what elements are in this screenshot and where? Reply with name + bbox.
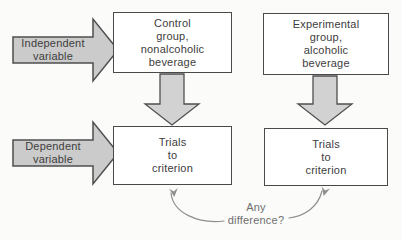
any-difference-annotation: Any difference?: [206, 201, 306, 226]
control-group-box: Control group, nonalcoholic beverage: [113, 12, 232, 73]
dependent-variable-label: Dependent variable: [13, 139, 93, 166]
experimental-group-box: Experimental group, alcoholic beverage: [263, 13, 389, 75]
experiment-design-diagram: Independent variable Dependent variable …: [0, 0, 402, 240]
independent-variable-label: Independent variable: [13, 36, 93, 63]
down-arrow-experimental: [298, 76, 352, 125]
down-arrow-control: [145, 74, 199, 125]
trials-to-criterion-box-experimental: Trials to criterion: [264, 128, 388, 186]
trials-to-criterion-box-control: Trials to criterion: [113, 126, 232, 185]
